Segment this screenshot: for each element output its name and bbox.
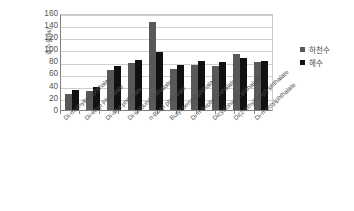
- legend-swatch-icon: [300, 47, 305, 52]
- legend-swatch-icon: [300, 60, 305, 65]
- legend-item-label: 하천수: [309, 44, 330, 55]
- legend-item-label: 해수: [309, 57, 323, 68]
- x-axis-tick-labels: Di-methylterephthalateDi-ethyl Phthalate…: [0, 0, 354, 211]
- legend-item: 해수: [300, 56, 354, 69]
- x-axis-tick-label: Di-n-octylphthalate: [253, 81, 297, 121]
- legend-item: 하천수: [300, 43, 354, 56]
- legend: 하천수해수: [300, 43, 354, 69]
- bar-chart: 회수율[%] 160140120100806040200 Di-methylte…: [0, 0, 354, 211]
